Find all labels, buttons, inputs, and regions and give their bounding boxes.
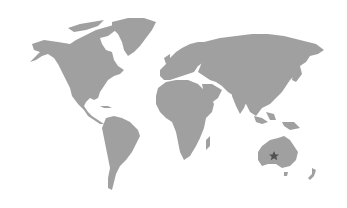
- australia: [258, 136, 298, 168]
- world-map: [0, 0, 347, 208]
- north-america: [30, 24, 124, 124]
- greenland: [112, 18, 156, 56]
- south-america: [102, 116, 140, 190]
- continents: [30, 18, 324, 190]
- asia: [198, 34, 324, 116]
